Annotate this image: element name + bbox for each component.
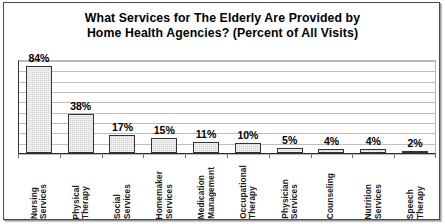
category-label-slot: HomemakerServices bbox=[143, 155, 185, 221]
bar-group: 15% bbox=[143, 60, 185, 153]
category-label-line: Services bbox=[290, 184, 300, 219]
category-label: SpeechTherapy bbox=[406, 155, 425, 219]
bar-group: 17% bbox=[102, 60, 144, 153]
category-label-slot: MedicationManagement bbox=[185, 155, 227, 221]
category-label: PhysicianServices bbox=[280, 155, 299, 219]
bar-group: 10% bbox=[227, 60, 269, 153]
category-label: SocialServices bbox=[113, 155, 132, 219]
category-label-slot: PhysicianServices bbox=[269, 155, 311, 221]
bar[interactable] bbox=[151, 138, 177, 154]
category-label-line: Therapy bbox=[415, 186, 425, 219]
category-label: PhysicalTherapy bbox=[71, 155, 90, 219]
category-label-line: Therapy bbox=[248, 186, 258, 219]
figure-frame: What Services for The Elderly Are Provid… bbox=[3, 2, 440, 220]
category-label-line: Services bbox=[122, 184, 132, 219]
chart-figure: What Services for The Elderly Are Provid… bbox=[0, 0, 445, 224]
category-label: HomemakerServices bbox=[155, 155, 174, 219]
bar-group: 5% bbox=[269, 60, 311, 153]
category-label: NursingServices bbox=[29, 155, 48, 219]
bar[interactable] bbox=[109, 135, 135, 153]
category-labels: NursingServicesPhysicalTherapySocialServ… bbox=[18, 155, 436, 221]
category-label: MedicationManagement bbox=[197, 155, 216, 219]
category-label-slot: OccupationalTherapy bbox=[227, 155, 269, 221]
bar-group: 4% bbox=[352, 60, 394, 153]
category-label-slot: SocialServices bbox=[102, 155, 144, 221]
bar[interactable] bbox=[68, 114, 94, 153]
bar[interactable] bbox=[26, 66, 52, 153]
category-label: OccupationalTherapy bbox=[238, 155, 257, 219]
category-label: NutritionServices bbox=[364, 155, 383, 219]
bar-group: 11% bbox=[185, 60, 227, 153]
category-label: Counseling bbox=[327, 155, 337, 219]
category-label-line: Counseling bbox=[327, 173, 337, 219]
category-label-slot: SpeechTherapy bbox=[394, 155, 436, 221]
category-label-line: Therapy bbox=[81, 186, 91, 219]
chart-title-line-1: What Services for The Elderly Are Provid… bbox=[14, 11, 431, 26]
bar-value-label: 4% bbox=[366, 136, 381, 147]
chart-title: What Services for The Elderly Are Provid… bbox=[14, 11, 431, 41]
category-label-line: Services bbox=[373, 184, 383, 219]
bar-group: 84% bbox=[18, 60, 60, 153]
bar-group: 4% bbox=[311, 60, 353, 153]
category-label-line: Services bbox=[164, 184, 174, 219]
bar-value-label: 11% bbox=[196, 129, 216, 140]
bar[interactable] bbox=[235, 143, 261, 153]
bar-value-label: 4% bbox=[324, 136, 339, 147]
bar[interactable] bbox=[193, 142, 219, 153]
bar-value-label: 15% bbox=[154, 125, 175, 136]
category-label-slot: NursingServices bbox=[18, 155, 60, 221]
bar-value-label: 17% bbox=[112, 122, 133, 133]
bar-group: 38% bbox=[60, 60, 102, 153]
bar-value-label: 2% bbox=[407, 138, 422, 149]
chart-title-line-2: Home Health Agencies? (Percent of All Vi… bbox=[14, 26, 431, 41]
category-label-slot: PhysicalTherapy bbox=[60, 155, 102, 221]
bar-value-label: 10% bbox=[237, 130, 258, 141]
bar-value-label: 5% bbox=[282, 135, 297, 146]
bars-layer: 84%38%17%15%11%10%5%4%4%2% bbox=[18, 60, 436, 153]
category-label-slot: Counseling bbox=[311, 155, 353, 221]
bar-value-label: 38% bbox=[70, 101, 91, 112]
bar-group: 2% bbox=[394, 60, 436, 153]
category-label-line: Services bbox=[39, 184, 49, 219]
bar-value-label: 84% bbox=[28, 53, 49, 64]
category-label-slot: NutritionServices bbox=[352, 155, 394, 221]
category-label-line: Management bbox=[206, 167, 216, 219]
